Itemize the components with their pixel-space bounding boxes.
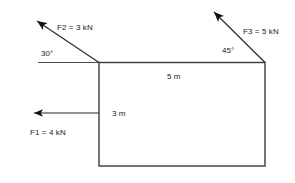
force-label-f2: F2 = 3 kN — [57, 24, 93, 32]
dimension-label-width: 5 m — [167, 73, 181, 81]
dimension-label-height: 3 m — [112, 110, 126, 118]
force-label-f1: F1 = 4 kN — [30, 129, 66, 137]
angle-label-f3: 45° — [222, 47, 234, 55]
angle-label-f2: 30° — [41, 50, 53, 58]
force-label-f3: F3 = 5 kN — [243, 28, 279, 36]
statics-diagram: F2 = 3 kN 30° F3 = 5 kN 45° F1 = 4 kN 5 … — [0, 0, 295, 183]
